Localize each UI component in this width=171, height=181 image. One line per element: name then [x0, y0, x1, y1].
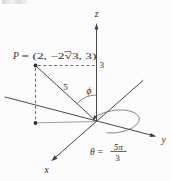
projection-of-p: [34, 121, 97, 125]
y-axis-label: y: [160, 135, 166, 145]
rho-length-label: 5: [63, 82, 68, 92]
phi-label: ϕ: [87, 86, 92, 96]
axis-y: y: [5, 97, 166, 145]
phi-arc: [77, 95, 97, 104]
theta-value-label: θ = 5π 3: [90, 142, 127, 163]
y-axis-arrowhead-icon: [150, 133, 156, 137]
z-height-label: 3: [100, 60, 105, 70]
theta-denominator: 3: [115, 153, 120, 163]
x-axis-label: x: [43, 165, 49, 175]
figure-page: z x y 5 ϕ: [0, 0, 171, 181]
point-p: P = (2, −2√3, 3): [12, 51, 97, 67]
axis-x: x: [43, 81, 143, 176]
theta-prefix: θ =: [90, 147, 103, 157]
projection-point-dot: [34, 121, 38, 125]
projection-segment: [38, 122, 97, 123]
theta-numerator: 5π: [114, 142, 124, 152]
phi-angle: ϕ: [77, 86, 97, 104]
point-p-symbol: P: [12, 51, 19, 61]
point-p-dot: [34, 64, 38, 68]
y-axis-line: [5, 97, 155, 136]
z-axis-label: z: [94, 9, 99, 19]
point-p-coordinates: = (2, −2√3, 3): [22, 51, 97, 61]
spherical-coordinates-figure: z x y 5 ϕ: [0, 0, 171, 181]
z-axis-arrowhead-icon: [95, 23, 99, 30]
